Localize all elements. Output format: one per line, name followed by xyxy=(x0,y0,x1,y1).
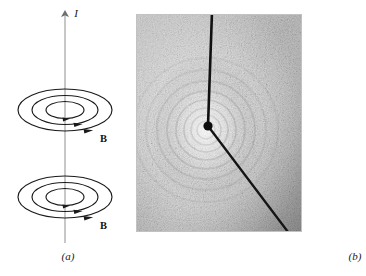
lower-field-label: B xyxy=(100,220,107,231)
panel-b-photograph: (b) xyxy=(136,0,320,276)
upper-arrowhead-middle xyxy=(74,123,83,127)
current-label: I xyxy=(73,7,79,19)
wire-pierce-point xyxy=(203,121,212,130)
upper-arrowhead-outer xyxy=(84,129,94,134)
photo-corner-shade xyxy=(136,14,302,232)
panel-a-diagram: I B B xyxy=(0,0,136,276)
lower-arrowhead-outer xyxy=(84,216,94,221)
caption-panel-a: (a) xyxy=(0,250,136,262)
caption-panel-b: (b) xyxy=(272,250,366,262)
photo-frame xyxy=(136,14,302,232)
iron-filings-photo xyxy=(136,14,302,232)
field-loops-diagram: I B B xyxy=(0,0,136,250)
upper-field-label: B xyxy=(100,133,107,144)
lower-arrowhead-middle xyxy=(74,210,83,214)
